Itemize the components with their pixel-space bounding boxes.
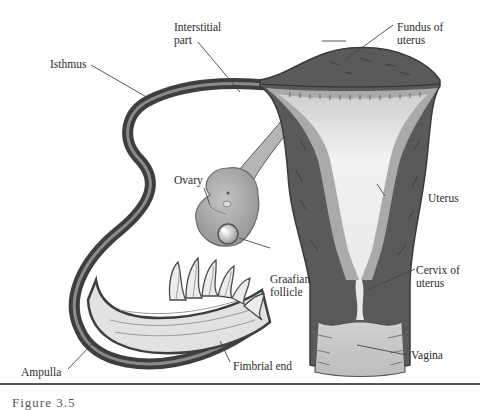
label-graafian-follicle: Graafian follicle: [270, 273, 310, 298]
label-cervix-of-uterus: Cervix of uterus: [416, 264, 460, 289]
fallopian-tube: [74, 83, 300, 363]
label-interstitial-part: Interstitial part: [174, 21, 221, 46]
label-ovary: Ovary: [174, 174, 203, 187]
label-uterus: Uterus: [428, 192, 459, 205]
caption-divider: [0, 383, 480, 385]
label-vagina: Vagina: [411, 349, 443, 362]
ovary: [196, 168, 259, 247]
vagina: [315, 322, 405, 377]
label-isthmus: Isthmus: [50, 58, 86, 71]
label-ampulla: Ampulla: [21, 366, 61, 379]
graafian-follicle-shape: [218, 224, 238, 244]
label-fundus-of-uterus: Fundus of uterus: [397, 21, 443, 46]
label-fimbrial-end: Fimbrial end: [233, 360, 292, 373]
figure-caption: Figure 3.5: [12, 395, 75, 411]
